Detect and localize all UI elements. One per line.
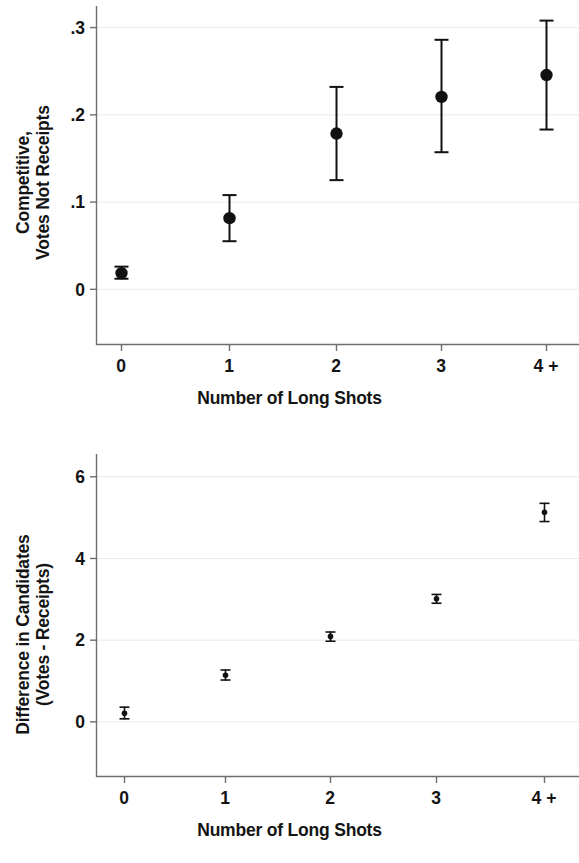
data-point-with-error-bar [115, 266, 129, 279]
y-axis-tick-label: 2 [75, 630, 85, 650]
x-axis-tick-label: 1 [224, 356, 234, 376]
x-axis-tick-label: 2 [331, 356, 341, 376]
x-axis-label: Number of Long Shots [0, 388, 579, 409]
data-point-with-error-bar [330, 86, 344, 180]
chart-panel-competitive: Competitive, Votes Not Receipts 0.1.2.30… [0, 0, 579, 432]
x-axis-tick-label: 0 [116, 356, 126, 376]
x-axis-tick-label: 1 [220, 788, 230, 808]
data-point-with-error-bar [540, 20, 554, 130]
y-axis-tick-label: 0 [75, 712, 85, 732]
y-axis-tick-label: .2 [70, 105, 85, 125]
data-point-with-error-bar [435, 39, 449, 152]
chart-panel-difference: Difference in Candidates (Votes - Receip… [0, 432, 579, 863]
data-point-with-error-bar [432, 594, 442, 604]
x-axis-label: Number of Long Shots [0, 820, 579, 841]
x-axis-tick-label: 4 + [534, 356, 559, 376]
x-axis-tick-label: 0 [119, 788, 129, 808]
x-axis-tick-label: 4 + [532, 788, 557, 808]
plot-area-competitive: 0.1.2.301234 + [0, 0, 579, 432]
data-point-with-error-bar [540, 503, 550, 522]
y-axis-tick-label: 4 [75, 549, 85, 569]
y-axis-tick-label: 6 [75, 467, 85, 487]
x-axis-tick-label: 2 [325, 788, 335, 808]
x-axis-tick-label: 3 [431, 788, 441, 808]
y-axis-tick-label: .1 [70, 192, 85, 212]
data-point-with-error-bar [221, 669, 231, 680]
x-axis-tick-label: 3 [436, 356, 446, 376]
y-axis-tick-label: .3 [70, 18, 85, 38]
data-point-with-error-bar [120, 707, 130, 720]
y-axis-tick-label: 0 [75, 280, 85, 300]
plot-area-difference: 024601234 + [0, 432, 579, 863]
